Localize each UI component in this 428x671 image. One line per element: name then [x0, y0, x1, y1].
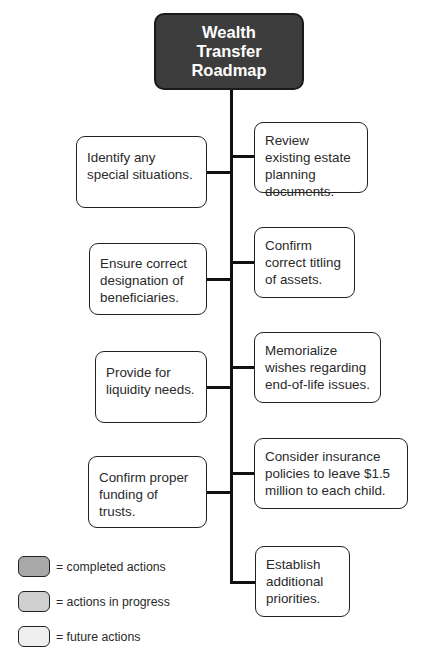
task-text: Confirm correct titling of assets.: [265, 238, 341, 287]
root-title-line-1: Wealth: [191, 23, 266, 42]
task-box-liquidity: Provide for liquidity needs.: [95, 351, 207, 423]
spine-connector: [230, 90, 233, 584]
task-text: Consider insurance policies to leave $1.…: [265, 449, 390, 498]
task-box-additional-priorities: Establish additional priorities.: [255, 546, 350, 617]
connector-right-2: [231, 261, 255, 264]
connector-left-2: [205, 278, 232, 281]
connector-right-1: [231, 155, 255, 158]
connector-right-4: [231, 472, 255, 475]
connector-left-3: [205, 386, 232, 389]
legend-swatch-future: [18, 626, 50, 647]
task-text: Identify any special situations.: [87, 150, 193, 182]
legend-swatch-completed: [18, 556, 50, 577]
task-box-trust-funding: Confirm proper funding of trusts.: [88, 456, 207, 528]
root-title-line-2: Transfer: [191, 42, 266, 61]
legend-label-in-progress: = actions in progress: [56, 595, 170, 609]
legend-label-completed: = completed actions: [56, 560, 166, 574]
connector-right-5: [231, 581, 255, 584]
task-box-beneficiaries: Ensure correct designation of beneficiar…: [89, 243, 207, 315]
legend-swatch-in-progress: [18, 591, 50, 612]
legend: = completed actions = actions in progres…: [18, 556, 218, 661]
connector-left-4: [205, 491, 232, 494]
root-title-line-3: Roadmap: [191, 61, 266, 80]
root-node: Wealth Transfer Roadmap: [154, 13, 304, 90]
task-box-review-documents: Review existing estate planning document…: [254, 122, 368, 193]
legend-label-future: = future actions: [56, 630, 140, 644]
task-box-asset-titling: Confirm correct titling of assets.: [254, 227, 355, 298]
task-text: Confirm proper funding of trusts.: [99, 470, 188, 519]
task-box-end-of-life: Memorialize wishes regarding end-of-life…: [254, 332, 381, 403]
task-box-insurance: Consider insurance policies to leave $1.…: [254, 438, 408, 509]
task-box-special-situations: Identify any special situations.: [76, 136, 207, 208]
connector-right-3: [231, 366, 255, 369]
task-text: Provide for liquidity needs.: [106, 365, 195, 397]
task-text: Memorialize wishes regarding end-of-life…: [265, 343, 370, 392]
task-text: Ensure correct designation of beneficiar…: [100, 256, 187, 305]
connector-left-1: [205, 171, 232, 174]
task-text: Establish additional priorities.: [266, 557, 323, 606]
task-text: Review existing estate planning document…: [265, 133, 351, 199]
